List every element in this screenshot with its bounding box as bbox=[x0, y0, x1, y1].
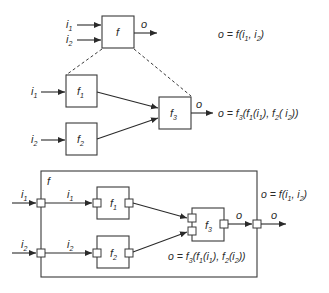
block-f2 bbox=[66, 123, 97, 155]
equation-bottom-outer: o = f(i1, i2) bbox=[261, 188, 307, 202]
f2-output-port bbox=[125, 249, 133, 257]
output-label-o: o bbox=[196, 98, 202, 110]
external-input-label-i2: i2 bbox=[21, 238, 27, 252]
f1-output-port bbox=[125, 199, 133, 207]
f2-input-port bbox=[93, 249, 101, 257]
output-label-o: o bbox=[141, 18, 147, 30]
f3-output-port bbox=[220, 220, 228, 228]
block-f1 bbox=[66, 75, 97, 107]
composition-diagram: f i1 i2 o o = f(i1, i2) f1 f2 f3 i1 i2 o bbox=[0, 0, 329, 293]
bottom-panel: f i1 i2 i1 i2 f1 f2 f3 o bbox=[12, 171, 307, 277]
block-f3 bbox=[159, 97, 191, 129]
middle-panel: f1 f2 f3 i1 i2 o o = f3(f1(i1), f2( i2)) bbox=[31, 75, 299, 155]
connector-f1-f3 bbox=[97, 92, 158, 108]
f3-input-port-2 bbox=[188, 227, 196, 235]
outer-input-port-i1 bbox=[37, 199, 45, 207]
equation-middle: o = f3(f1(i1), f2( i2)) bbox=[218, 107, 299, 121]
input-label-i1: i1 bbox=[66, 18, 72, 32]
expand-dashed-line-left bbox=[66, 49, 102, 75]
equation-top: o = f(i1, i2) bbox=[218, 28, 264, 42]
internal-output-label-o: o bbox=[236, 209, 242, 221]
external-output-label-o: o bbox=[271, 209, 277, 221]
diagram-canvas: f i1 i2 o o = f(i1, i2) f1 f2 f3 i1 i2 o bbox=[0, 0, 329, 293]
f3-input-port-1 bbox=[188, 214, 196, 222]
input-label-i1: i1 bbox=[31, 85, 37, 99]
input-label-i2: i2 bbox=[31, 133, 37, 147]
input-label-i2: i2 bbox=[66, 33, 72, 47]
outer-output-port bbox=[253, 220, 261, 228]
outer-input-port-i2 bbox=[37, 249, 45, 257]
external-input-label-i1: i1 bbox=[21, 188, 27, 202]
equation-bottom-inner: o = f3(f1(i1), f2(i2)) bbox=[168, 250, 246, 264]
expand-dashed-line-right bbox=[134, 49, 191, 96]
f1-input-port bbox=[93, 199, 101, 207]
connector-f2-f3 bbox=[97, 118, 158, 139]
